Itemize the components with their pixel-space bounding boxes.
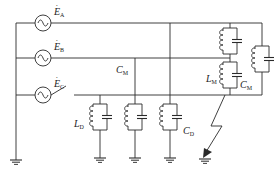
tank-bc-lower [220, 58, 242, 92]
hat-eb: · [56, 36, 59, 45]
hat-ea: · [56, 1, 59, 10]
source-c-icon [35, 87, 51, 103]
label-cd: CD [183, 125, 195, 137]
label-ld: LD [73, 118, 85, 130]
tank-ground-c [160, 100, 182, 134]
label-cm-tank: CM [240, 79, 253, 91]
hat-ec: · [56, 73, 59, 82]
ground-icon [10, 160, 22, 164]
ground-icon [164, 158, 176, 162]
tank-ground-b [125, 100, 147, 134]
ground-icon [199, 159, 211, 163]
ground-icon [129, 158, 141, 162]
label-cm-bus: CM [116, 64, 129, 76]
tank-ground-a [90, 100, 112, 134]
fault-path [206, 95, 225, 152]
tank-ac-right [252, 42, 274, 76]
circuit-diagram: EA · EB · EC · CM LM CM LD CD [0, 0, 280, 182]
label-lm: LM [205, 73, 218, 85]
tank-ab-upper [220, 24, 242, 58]
source-a-icon [35, 15, 51, 31]
source-b-icon [35, 50, 51, 66]
ground-icon [94, 158, 106, 162]
